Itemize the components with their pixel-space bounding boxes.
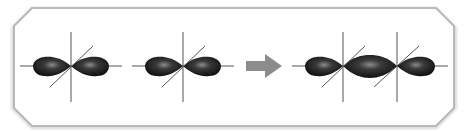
orbital-diagram [0, 0, 468, 132]
